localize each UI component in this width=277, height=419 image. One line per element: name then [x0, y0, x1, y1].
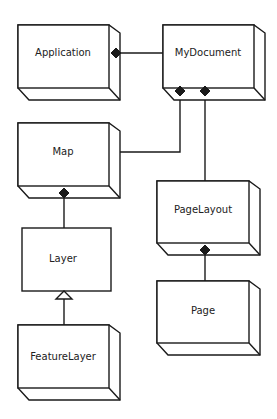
- class-application-label: Application: [35, 47, 91, 58]
- class-page[interactable]: Page: [157, 281, 260, 355]
- class-map[interactable]: Map: [18, 123, 120, 198]
- class-layer[interactable]: Layer: [22, 228, 111, 291]
- inheritance-triangle-layer: [56, 291, 72, 299]
- class-pagelayout-label: PageLayout: [174, 204, 232, 215]
- class-pagelayout[interactable]: PageLayout: [157, 181, 260, 255]
- class-featurelayer[interactable]: FeatureLayer: [18, 325, 120, 400]
- class-featurelayer-label: FeatureLayer: [30, 351, 97, 362]
- class-application[interactable]: Application: [18, 25, 120, 100]
- class-page-label: Page: [191, 305, 215, 316]
- class-layer-label: Layer: [49, 253, 78, 264]
- class-diagram: Application MyDocument Map PageLayout La…: [0, 0, 277, 419]
- class-mydocument-label: MyDocument: [175, 47, 241, 58]
- class-map-label: Map: [52, 146, 73, 157]
